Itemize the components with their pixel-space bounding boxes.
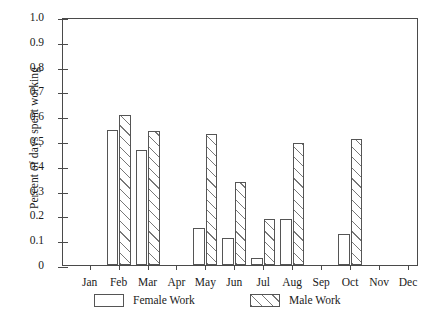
plot-area: JanFebMarAprMayJunJulAugSepOctNovDec	[62, 18, 418, 266]
x-axis-tick	[176, 265, 177, 270]
y-axis-tick-inner	[63, 242, 68, 243]
y-axis-tick-inner	[63, 118, 68, 119]
x-axis-tick	[263, 265, 264, 270]
x-axis-tick-label: Dec	[388, 276, 428, 288]
bar-female-work-oct	[338, 234, 350, 265]
y-axis-tick-inner	[63, 93, 68, 94]
legend-entry-female-work: Female Work	[94, 291, 195, 309]
y-axis-tick-inner	[63, 168, 68, 169]
x-axis-tick	[321, 265, 322, 270]
bar-male-work-jul	[264, 219, 276, 265]
y-axis-tick-inner	[63, 69, 68, 70]
x-axis-tick	[379, 265, 380, 270]
y-axis-tick-label: 0.6	[18, 111, 44, 123]
y-axis-tick-inner	[63, 19, 68, 20]
y-axis-tick-label: 0.5	[18, 136, 44, 148]
legend-label: Male Work	[289, 294, 341, 306]
y-axis-tick-inner	[63, 193, 68, 194]
y-axis-tick-label: 0.2	[18, 210, 44, 222]
bar-female-work-may	[193, 228, 205, 265]
bar-female-work-jun	[222, 238, 234, 265]
legend-entry-male-work: Male Work	[250, 291, 341, 309]
y-axis-tick-label: 0.9	[18, 37, 44, 49]
bar-male-work-oct	[351, 139, 363, 265]
y-axis-tick-label: 0	[18, 260, 44, 272]
x-axis-tick	[350, 265, 351, 270]
x-axis-tick	[90, 265, 91, 270]
bar-male-work-mar	[148, 131, 160, 265]
x-axis-tick	[119, 265, 120, 270]
y-axis-tick-inner	[63, 44, 68, 45]
y-axis-tick-labels: 00.10.20.30.40.50.60.70.80.91.0	[12, 0, 44, 319]
y-axis-tick-inner	[63, 267, 68, 268]
y-axis-tick-label: 0.7	[18, 86, 44, 98]
y-axis-tick-label: 0.8	[18, 62, 44, 74]
chart-figure: Percent of days spent working 00.10.20.3…	[0, 0, 429, 319]
y-axis-tick-label: 0.4	[18, 161, 44, 173]
y-axis-tick-inner	[63, 143, 68, 144]
y-axis-tick-label: 0.3	[18, 186, 44, 198]
chart-legend: Female WorkMale Work	[62, 291, 418, 313]
legend-label: Female Work	[133, 294, 195, 306]
y-axis-tick-inner	[63, 217, 68, 218]
y-axis-tick-label: 1.0	[18, 12, 44, 24]
x-axis-tick	[234, 265, 235, 270]
x-axis-tick	[292, 265, 293, 270]
x-axis-tick	[408, 265, 409, 270]
bar-male-work-feb	[119, 115, 131, 265]
bar-male-work-jun	[235, 182, 247, 265]
bar-male-work-aug	[293, 143, 305, 265]
x-axis-tick	[205, 265, 206, 270]
bar-female-work-jul	[251, 258, 263, 265]
legend-swatch-icon	[94, 294, 124, 307]
bar-female-work-feb	[107, 130, 119, 265]
legend-swatch-icon	[250, 294, 280, 307]
bar-female-work-mar	[136, 150, 148, 265]
bar-male-work-may	[206, 134, 218, 265]
x-axis-tick	[148, 265, 149, 270]
bar-female-work-aug	[280, 219, 292, 265]
y-axis-tick-label: 0.1	[18, 235, 44, 247]
